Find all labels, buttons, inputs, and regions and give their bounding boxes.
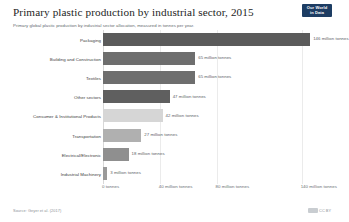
category-label: Industrial Machinery: [61, 172, 101, 178]
bar[interactable]: [103, 148, 129, 161]
bar[interactable]: [103, 90, 170, 103]
chart-subtitle: Primary global plastic production by ind…: [13, 22, 285, 29]
category-label: Textiles: [86, 76, 101, 82]
bar[interactable]: [103, 52, 195, 65]
category-label: Packaging: [80, 38, 101, 44]
bar[interactable]: [103, 167, 107, 180]
category-label: Building and Construction: [50, 57, 101, 63]
axis-tick-label: 140 million tonnes: [301, 184, 337, 189]
source-note: Source: Geyer et al. (2017): [13, 208, 61, 213]
category-label: Transportation: [72, 134, 101, 140]
bar[interactable]: [103, 33, 310, 46]
our-world-in-data-logo[interactable]: Our World in Data: [302, 4, 332, 17]
creative-commons-icon: [308, 208, 318, 213]
bar-value-label: 47 million tonnes: [173, 94, 206, 100]
bar-row[interactable]: Industrial Machinery3 million tonnes: [0, 165, 337, 184]
plot-area: Packaging146 million tonnesBuilding and …: [0, 30, 337, 184]
bar-row[interactable]: Electrical/Electronic18 million tonnes: [0, 146, 337, 165]
category-label: Electrical/Electronic: [62, 153, 101, 159]
x-axis: 0 tonnes40 million tonnes80 million tonn…: [0, 184, 337, 194]
page-title: Primary plastic production by industrial…: [13, 6, 285, 19]
bar-value-label: 27 million tonnes: [144, 132, 177, 138]
bar-row[interactable]: Transportation27 million tonnes: [0, 127, 337, 146]
bar[interactable]: [103, 109, 163, 122]
bar-value-label: 65 million tonnes: [198, 55, 231, 61]
chart-header: Primary plastic production by industrial…: [13, 6, 285, 29]
category-label: Consumer & Institutional Products: [33, 114, 101, 120]
chart-footer: Source: Geyer et al. (2017) CC BY: [0, 208, 337, 218]
bar-row[interactable]: Packaging146 million tonnes: [0, 31, 337, 50]
bar-row[interactable]: Building and Construction65 million tonn…: [0, 50, 337, 69]
category-label: Other sectors: [74, 95, 101, 101]
bar[interactable]: [103, 71, 195, 84]
bar-value-label: 3 million tonnes: [110, 170, 141, 176]
axis-tick-label: 40 million tonnes: [159, 184, 193, 189]
bar-rows: Packaging146 million tonnesBuilding and …: [0, 30, 337, 184]
axis-tick-label: 0 tonnes: [102, 184, 119, 189]
license-note[interactable]: CC BY: [308, 208, 331, 213]
license-label: CC BY: [319, 208, 331, 213]
logo-line-2: in Data: [310, 11, 324, 16]
bar-value-label: 18 million tonnes: [132, 151, 165, 157]
bar-value-label: 65 million tonnes: [198, 74, 231, 80]
bar-row[interactable]: Textiles65 million tonnes: [0, 69, 337, 88]
bar-row[interactable]: Consumer & Institutional Products42 mill…: [0, 108, 337, 127]
bar-value-label: 42 million tonnes: [166, 113, 199, 119]
axis-tick-label: 80 million tonnes: [216, 184, 250, 189]
bar-value-label: 146 million tonnes: [313, 36, 349, 42]
bar[interactable]: [103, 129, 141, 142]
bar-row[interactable]: Other sectors47 million tonnes: [0, 89, 337, 108]
